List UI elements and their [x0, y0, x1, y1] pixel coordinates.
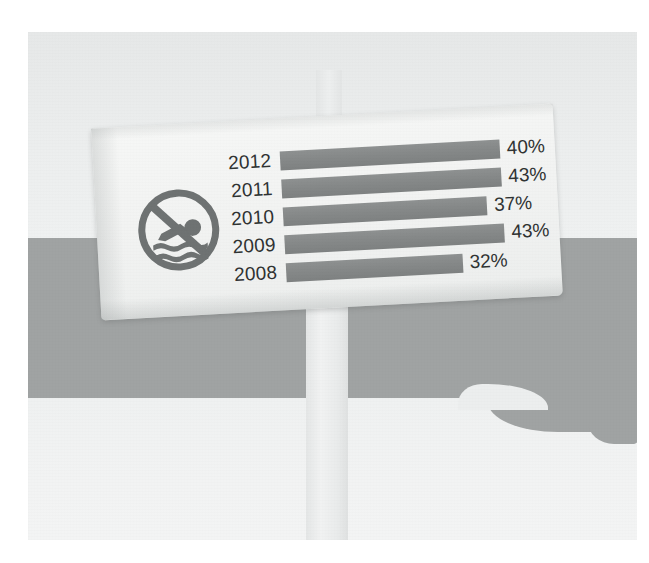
bar-value-label: 37%	[494, 192, 533, 216]
bar-value-label: 32%	[469, 249, 508, 273]
signboard: 2012 40% 2011 43% 2010	[91, 104, 563, 321]
bar-category-label: 2008	[215, 262, 278, 287]
bar-category-label: 2011	[210, 178, 273, 203]
bar-value-label: 43%	[508, 163, 547, 187]
bar-category-label: 2012	[209, 150, 272, 175]
bar-category-label: 2009	[213, 234, 276, 259]
bar-value-label: 43%	[511, 219, 550, 243]
bar-value-label: 40%	[506, 135, 545, 159]
bar-category-label: 2010	[212, 206, 275, 231]
bar-fill	[286, 253, 463, 282]
bar-chart: 2012 40% 2011 43% 2010	[208, 132, 552, 300]
photograph: 2012 40% 2011 43% 2010	[28, 32, 637, 540]
screenshot-root: 2012 40% 2011 43% 2010	[0, 0, 649, 563]
